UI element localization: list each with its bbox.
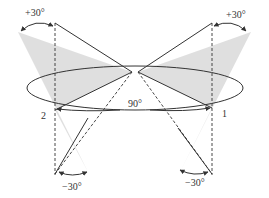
rotation-cones-diagram: +30° +30° −30° −30° 90° 2 1 bbox=[0, 0, 269, 198]
top-left-angle-arc bbox=[21, 23, 53, 31]
bottom-left-angle-arc bbox=[59, 172, 87, 175]
bottom-left-angle-label: −30° bbox=[62, 181, 82, 192]
point-2-label: 2 bbox=[41, 110, 46, 121]
top-right-angle-arc bbox=[214, 23, 246, 31]
left-shaded-cone bbox=[18, 32, 132, 172]
top-left-angle-label: +30° bbox=[25, 7, 45, 18]
point-1-label: 1 bbox=[222, 108, 227, 119]
center-angle-label: 90° bbox=[128, 98, 142, 109]
top-right-angle-label: +30° bbox=[226, 9, 246, 20]
bottom-right-angle-label: −30° bbox=[185, 177, 205, 188]
bottom-right-angle-arc bbox=[180, 170, 208, 174]
